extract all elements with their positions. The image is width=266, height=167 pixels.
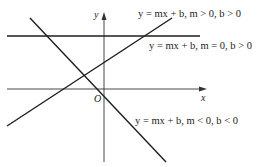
y-axis-label: y	[93, 9, 99, 20]
y-axis	[102, 12, 107, 162]
line-negative-slope	[30, 18, 166, 162]
x-axis	[7, 87, 207, 92]
label-negative-slope: y = mx + b, m < 0, b < 0	[135, 115, 238, 126]
label-positive-slope: y = mx + b, m > 0, b > 0	[138, 8, 241, 19]
origin-label: O	[94, 93, 101, 104]
line-positive-slope	[7, 18, 172, 126]
x-axis-arrow-icon	[199, 87, 207, 92]
linear-equations-diagram: y x O y = mx + b, m > 0, b > 0 y = mx + …	[0, 0, 266, 167]
y-axis-arrow-icon	[102, 12, 107, 20]
x-axis-label: x	[200, 92, 206, 103]
label-zero-slope: y = mx + b, m = 0, b > 0	[149, 40, 252, 51]
